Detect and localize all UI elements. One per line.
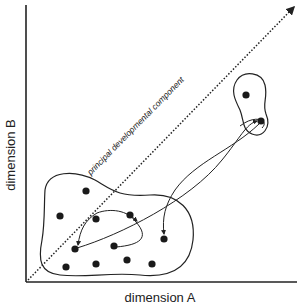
trajectory-from-upper: [163, 124, 259, 234]
upper-cluster-outline: [234, 74, 268, 135]
lower-cluster-points: [56, 187, 167, 270]
lower-cluster-outline: [40, 173, 193, 275]
trajectory-to-upper: [77, 121, 257, 248]
x-axis-label: dimension A: [125, 290, 196, 305]
y-axis-label: dimension B: [3, 119, 18, 191]
